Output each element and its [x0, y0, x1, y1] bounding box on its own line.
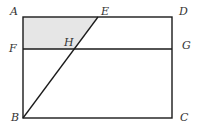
label-g: G	[182, 39, 191, 52]
label-c: C	[180, 111, 189, 124]
label-b: B	[10, 111, 19, 124]
label-h: H	[63, 36, 74, 49]
label-e: E	[100, 5, 109, 18]
label-a: A	[9, 5, 18, 18]
geometry-diagram: A E D F H G B C	[0, 0, 199, 126]
label-d: D	[178, 5, 188, 18]
label-f: F	[8, 42, 17, 55]
